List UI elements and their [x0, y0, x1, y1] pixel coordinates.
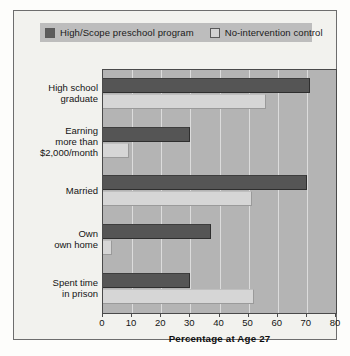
legend-label-program: High/Scope preschool program [60, 27, 194, 38]
x-tick-label-20: 20 [155, 317, 166, 328]
legend-label-control: No-intervention control [225, 27, 323, 38]
legend-entry-control: No-intervention control [210, 27, 323, 38]
y-axis-label: High school graduate [12, 82, 98, 104]
x-tick-label-50: 50 [242, 317, 253, 328]
bar-control [103, 94, 266, 109]
x-tick-label-10: 10 [126, 317, 137, 328]
x-axis-ticks: 01020304050607080 [102, 317, 337, 331]
bar-program [103, 127, 190, 142]
legend-entry-program: High/Scope preschool program [45, 27, 194, 38]
chart-legend: High/Scope preschool program No-interven… [40, 23, 312, 42]
gridline-80 [336, 70, 337, 313]
y-axis-label: Married [12, 185, 98, 196]
bar-group [103, 167, 336, 216]
bar-program [103, 78, 310, 93]
y-axis-label: Spent time in prison [12, 277, 98, 299]
bar-program [103, 175, 307, 190]
x-tick-label-0: 0 [99, 317, 104, 328]
bar-control [103, 240, 112, 255]
y-axis-label: Earning more than $2,000/month [12, 125, 98, 158]
legend-swatch-light-icon [210, 28, 220, 38]
bar-program [103, 273, 190, 288]
chart-figure: High/Scope preschool program No-interven… [0, 0, 350, 356]
x-axis-title: Percentage at Age 27 [102, 333, 337, 344]
bar-program [103, 224, 211, 239]
x-tick-label-30: 30 [184, 317, 195, 328]
bar-group [103, 70, 336, 119]
bar-group [103, 216, 336, 265]
chart-card: High/Scope preschool program No-interven… [13, 10, 337, 340]
bar-control [103, 143, 129, 158]
x-tick-label-60: 60 [271, 317, 282, 328]
legend-swatch-dark-icon [45, 28, 55, 38]
plot-area [102, 69, 337, 314]
bar-control [103, 191, 252, 206]
y-axis-category-labels: High school graduateEarning more than $2… [14, 69, 98, 314]
x-tick-label-40: 40 [213, 317, 224, 328]
bar-control [103, 289, 254, 304]
y-axis-label: Own own home [12, 228, 98, 250]
x-tick-label-70: 70 [301, 317, 312, 328]
bar-group [103, 119, 336, 168]
x-tick-label-80: 80 [330, 317, 341, 328]
bar-group [103, 264, 336, 313]
plot-area-wrapper [102, 69, 337, 314]
